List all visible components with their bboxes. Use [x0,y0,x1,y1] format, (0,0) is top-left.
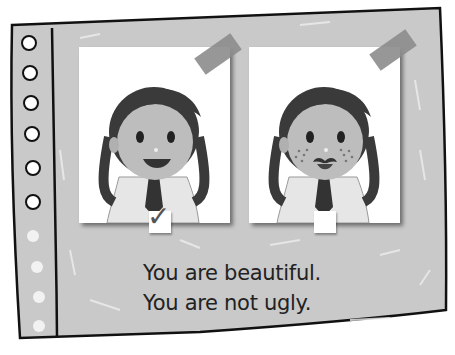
binder-hole [25,127,39,141]
binder-hole [26,161,40,175]
caption-line-1: You are beautiful. [143,258,321,288]
binder-hole [23,66,37,80]
girl-freckles-illustration [249,47,400,223]
check-icon: ✓ [147,203,170,231]
picture-card-ugly [249,47,400,223]
binder-hole [26,195,40,209]
caption-line-2: You are not ugly. [143,288,321,318]
binder-hole [24,96,38,110]
binder-hole [22,36,36,50]
checkbox-beautiful[interactable]: ✓ [149,211,171,233]
caption: You are beautiful. You are not ugly. [143,258,321,318]
checkbox-ugly[interactable] [314,211,336,233]
